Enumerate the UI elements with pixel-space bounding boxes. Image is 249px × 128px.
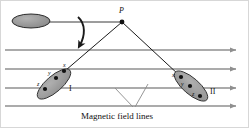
object-II-label: II	[210, 88, 215, 96]
figure-canvas	[0, 0, 249, 128]
object-I-point-x	[62, 69, 66, 73]
object-I-label: I	[69, 85, 72, 93]
object-II-point-x	[179, 75, 183, 79]
object-II-group	[170, 66, 212, 106]
object-II-point-z	[198, 94, 202, 98]
object-II-point-y	[188, 84, 192, 88]
rotation-arrow-icon	[78, 17, 84, 45]
ray-to-object-II	[122, 22, 179, 75]
vertex-point-p	[120, 20, 125, 25]
object-II-label-z: z	[192, 91, 194, 97]
object-I-point-y	[54, 76, 58, 80]
caption-leader-left	[115, 88, 133, 107]
vertex-label-p: P	[119, 7, 124, 15]
object-II-label-y: y	[181, 81, 184, 87]
object-I-label-y: y	[48, 70, 51, 76]
magnetic-field-figure: P x y z I x y z II Magnetic field lines	[0, 0, 249, 128]
object-I-point-z	[43, 87, 47, 91]
object-I-label-x: x	[63, 62, 66, 68]
source-ellipse	[12, 14, 50, 28]
object-I-label-z: z	[37, 81, 39, 87]
ray-to-object-I	[66, 22, 122, 70]
caption-text: Magnetic field lines	[81, 112, 153, 121]
object-II-label-x: x	[172, 72, 175, 78]
